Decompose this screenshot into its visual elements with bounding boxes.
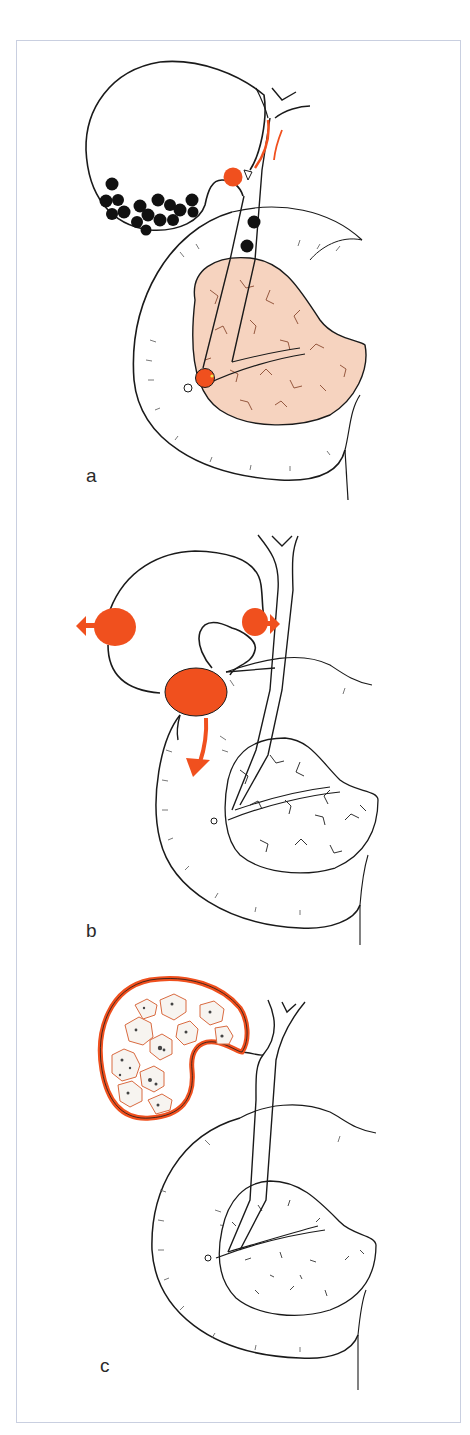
panel-c-illustration: [0, 960, 470, 1435]
panel-label-c: c: [100, 1355, 110, 1377]
duct-stone-icon: [241, 240, 254, 253]
panel-b-illustration: [0, 500, 470, 960]
papilla-icon: [184, 384, 192, 392]
panel-label-a: a: [86, 465, 97, 487]
inflammatory-mass-right-icon: [242, 608, 268, 636]
panel-a: a: [0, 0, 470, 500]
inflammatory-mass-bottom-icon: [165, 668, 227, 716]
panel-c: c: [0, 960, 470, 1435]
panel-b: b: [0, 500, 470, 960]
perforation-arrow-down-icon: [186, 718, 210, 777]
perforation-arrow-right-icon: [266, 614, 280, 634]
papilla-icon: [211, 818, 217, 824]
inflammatory-mass-left-icon: [94, 608, 136, 646]
papilla-icon: [205, 1255, 211, 1261]
perforation-arrow-left-icon: [76, 616, 96, 636]
pancreas-inflamed-icon: [193, 258, 366, 425]
panel-label-b: b: [86, 920, 97, 942]
duct-stone-icon: [248, 216, 261, 229]
impacted-stone-icon: [224, 168, 243, 187]
panel-a-illustration: [0, 0, 470, 500]
papilla-stone-icon: [196, 369, 215, 388]
gallbladder-icon: [110, 551, 264, 615]
